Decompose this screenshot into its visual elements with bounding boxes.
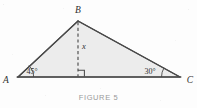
figure-caption: FIGURE 5 bbox=[79, 93, 118, 102]
vertex-label-b: B bbox=[75, 5, 81, 15]
altitude-label-x: x bbox=[81, 41, 86, 51]
triangle-abc-shape bbox=[18, 21, 180, 77]
vertex-label-a: A bbox=[2, 75, 9, 85]
triangle-figure: A B C 45° 30° x FIGURE 5 bbox=[0, 0, 197, 108]
figure-container: A B C 45° 30° x FIGURE 5 bbox=[0, 0, 197, 108]
vertex-label-c: C bbox=[187, 75, 194, 85]
angle-label-c: 30° bbox=[144, 67, 155, 76]
angle-label-a: 45° bbox=[26, 67, 37, 76]
